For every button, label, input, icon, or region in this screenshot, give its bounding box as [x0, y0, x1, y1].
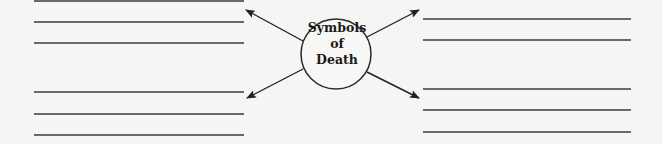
arrow-lower-right-icon: [367, 72, 419, 98]
arrow-lower-left-icon: [247, 69, 303, 98]
answer-lines-left-bottom: [34, 92, 244, 135]
answer-lines-right-top: [423, 19, 631, 40]
center-label: Symbols of Death: [302, 20, 372, 68]
arrow-upper-left-icon: [246, 10, 303, 41]
center-label-line-1: Symbols: [302, 20, 372, 36]
answer-lines-right-bottom: [423, 89, 631, 132]
arrow-upper-right-icon: [367, 10, 419, 37]
symbols-of-death-web-diagram: Symbols of Death: [0, 0, 662, 144]
center-label-line-3: Death: [302, 52, 372, 68]
answer-lines-left-top: [34, 1, 244, 43]
center-label-line-2: of: [302, 36, 372, 52]
